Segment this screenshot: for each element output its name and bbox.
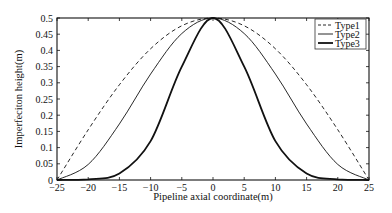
y-tick-label: 0.45 xyxy=(36,29,54,40)
y-tick-label: 0.05 xyxy=(36,158,54,169)
x-tick-label: −15 xyxy=(112,182,128,193)
y-tick-label: 0.5 xyxy=(41,13,54,24)
line-chart: −25−20−15−10−50510152025 00.050.10.150.2… xyxy=(0,0,392,213)
x-tick-label: 20 xyxy=(333,182,343,193)
y-tick-label: 0.2 xyxy=(41,110,54,121)
x-tick-label: −20 xyxy=(80,182,96,193)
x-axis-label: Pipeline axial coordinate(m) xyxy=(153,191,273,203)
y-tick-label: 0.25 xyxy=(36,94,54,105)
legend: Type1Type2Type3 xyxy=(315,19,366,49)
legend-label-type3: Type3 xyxy=(335,38,360,49)
x-tick-label: 25 xyxy=(364,182,374,193)
y-tick-label: 0 xyxy=(48,175,53,186)
y-tick-label: 0.15 xyxy=(36,126,54,137)
y-tick-label: 0.1 xyxy=(41,142,54,153)
x-tick-label: 15 xyxy=(302,182,312,193)
y-axis-label: Imperfeciton height(m) xyxy=(13,49,25,148)
y-tick-label: 0.4 xyxy=(41,45,54,56)
y-tick-label: 0.3 xyxy=(41,77,54,88)
y-tick-label: 0.35 xyxy=(36,61,54,72)
